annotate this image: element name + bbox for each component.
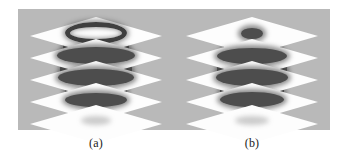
- panel-b-caption: (b): [174, 136, 330, 151]
- slice-shadow: [235, 116, 269, 125]
- panel-a: [18, 9, 174, 130]
- slice-cross-section: [241, 28, 263, 39]
- figure-root: (a) (b): [0, 0, 345, 165]
- panel-a-caption: (a): [18, 136, 174, 151]
- slice-shadow: [81, 116, 111, 125]
- panel-b: [174, 9, 330, 130]
